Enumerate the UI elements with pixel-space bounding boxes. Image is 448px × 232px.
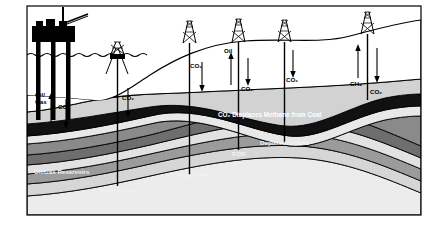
platform-deck [32,26,75,42]
flow-label-co2-4: CO₂ [241,85,253,92]
label-co2-displaces-methane: CO₂ Displaces Methane from Coal [218,111,322,119]
flow-label-co2-5: CO₂ [286,76,298,83]
diagram-canvas: Oil/ Gas CO₂ CO₂ CO₂ Oil CO₂ CO₂ CH₄ CO₂… [0,0,448,232]
label-deep-saline-left: Deep Saline [100,187,136,194]
flow-label-ch4: CH₄ [350,80,362,87]
platform-module-2 [46,19,55,27]
platform-module-1 [36,21,43,27]
label-deep-saline-right: Deep Saline [177,171,213,178]
platform-mast [62,7,64,22]
label-oil-gas-reservoirs: Oil/Gas Reservoirs [34,168,90,175]
co2-sequestration-diagram: Oil/ Gas CO₂ CO₂ CO₂ Oil CO₂ CO₂ CH₄ CO₂… [0,0,448,232]
flow-label-co2-6: CO₂ [370,88,382,95]
platform-leg-1 [36,42,41,120]
flow-label-oil-up: Oil [224,47,233,54]
flow-label-gas: Gas [35,98,47,105]
label-eor: EOR [232,150,246,157]
flow-label-co2-1: CO₂ [58,103,70,110]
flow-label-oil: Oil/ [35,91,45,98]
flow-label-co2-2: CO₂ [122,94,134,101]
flow-label-co2-3: CO₂ [190,62,202,69]
platform-leg-2 [51,42,56,120]
label-depleted-oil-gas: Depleted Oil/Gas [260,139,310,146]
